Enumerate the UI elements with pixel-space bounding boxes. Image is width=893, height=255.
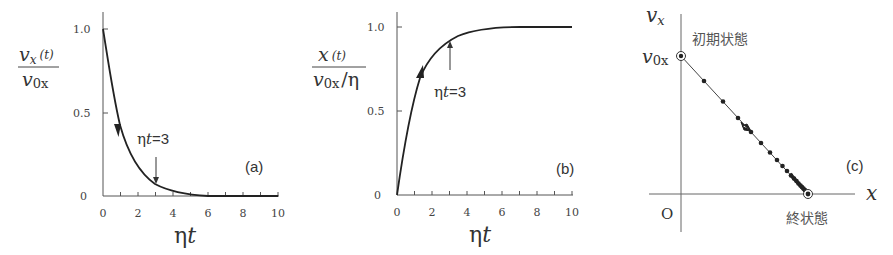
panel-b-y-label: x(t) v0x/η bbox=[312, 43, 366, 91]
panel-a-label: (a) bbox=[245, 158, 263, 175]
panel-a-ytick-label: 0.5 bbox=[73, 107, 91, 120]
panel-b-xtick-label: 2 bbox=[429, 206, 436, 219]
panel-c-v0-label: v0x bbox=[642, 45, 669, 68]
panel-c-initial-state-marker bbox=[677, 52, 686, 61]
panel-b-ytick-label: 1.0 bbox=[367, 21, 385, 34]
panel-a-xtick-label: 8 bbox=[240, 207, 247, 220]
panel-a-x-label: ηt bbox=[174, 223, 196, 248]
panel-c-x-axis-label: x bbox=[866, 181, 877, 205]
panel-b-annotation: ηt=3 bbox=[434, 83, 466, 101]
panel-c-initial-state-label: 初期状態 bbox=[692, 31, 748, 47]
panel-a-direction-arrow-icon bbox=[114, 124, 121, 137]
panel-a-annotation: ηt=3 bbox=[137, 130, 169, 148]
panel-c-label: (c) bbox=[846, 157, 864, 174]
panel-b-xtick-label: 4 bbox=[464, 206, 471, 219]
panel-a-xtick-label: 2 bbox=[135, 207, 142, 220]
panel-a-ytick-label: 1.0 bbox=[73, 23, 91, 36]
panel-b-direction-arrow-icon bbox=[416, 65, 424, 78]
panel-b-x-label: ηt bbox=[469, 222, 491, 247]
svg-text:v0x/η: v0x/η bbox=[313, 68, 359, 91]
panel-b-xtick-label: 6 bbox=[499, 206, 506, 219]
panel-c: vx x O v0x 初期状態 終状態 bbox=[642, 3, 877, 232]
panel-b-xtick-label: 10 bbox=[565, 206, 579, 219]
panel-c-y-axis-label: vx bbox=[646, 3, 665, 28]
panel-a-xtick-label: 4 bbox=[170, 207, 177, 220]
panel-a-xtick-label: 10 bbox=[271, 207, 285, 220]
panel-a-y-label: vx(t) v0x bbox=[18, 43, 59, 91]
figure: 0 0.5 1.0 0 2 4 6 8 10 ηt vx(t) v0x bbox=[0, 0, 893, 255]
panel-a-ytick-label: 0 bbox=[80, 190, 87, 203]
panel-b-ytick-label: 0 bbox=[374, 189, 381, 202]
panel-b: 0 0.5 1.0 0 2 4 6 8 10 ηt x(t) v0x/η ηt=… bbox=[312, 12, 579, 247]
panel-b-x-ticks bbox=[415, 191, 573, 195]
svg-text:x(t): x(t) bbox=[318, 43, 346, 65]
panel-b-ytick-label: 0.5 bbox=[367, 105, 385, 118]
panel-b-xtick-label: 8 bbox=[534, 206, 541, 219]
panel-c-direction-arrow-icon bbox=[741, 122, 751, 131]
panel-a-xtick-label: 0 bbox=[100, 207, 107, 220]
panel-b-label: (b) bbox=[556, 160, 574, 177]
panel-b-xtick-label: 0 bbox=[394, 206, 401, 219]
panel-c-origin-label: O bbox=[661, 205, 673, 223]
panel-c-final-state-marker bbox=[804, 190, 813, 199]
panel-a: 0 0.5 1.0 0 2 4 6 8 10 ηt vx(t) v0x bbox=[18, 12, 285, 248]
panel-a-xtick-label: 6 bbox=[205, 207, 212, 220]
panel-c-dense-segment bbox=[790, 174, 806, 192]
svg-text:vx(t): vx(t) bbox=[19, 43, 54, 67]
panel-b-curve bbox=[397, 27, 572, 195]
svg-text:v0x: v0x bbox=[22, 68, 49, 91]
panel-b-y-ticks bbox=[397, 27, 402, 111]
panel-c-final-state-label: 終状態 bbox=[786, 210, 828, 226]
